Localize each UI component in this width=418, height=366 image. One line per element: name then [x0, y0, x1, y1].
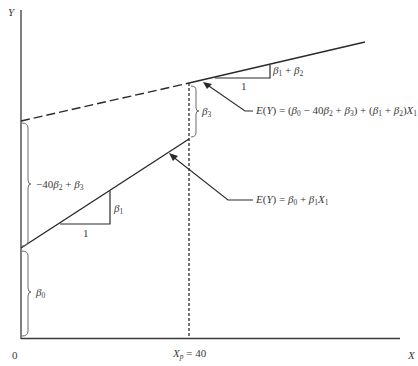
lower-run-label: 1 [83, 228, 89, 239]
upper-line-equation: E(Y) = (β0 − 40β2 + β3) + (β1 + β2)X1 [256, 105, 417, 118]
upper-slope-triangle [215, 65, 270, 78]
intercept-brace [22, 251, 31, 336]
lower-slope-label: β1 [114, 203, 123, 216]
xp-label: Xp = 40 [173, 348, 206, 361]
lower-line-equation: E(Y) = β0 + β1X1 [256, 194, 329, 207]
upper-arrowhead-icon [203, 82, 212, 89]
upper-slope-label: β1 + β2 [273, 65, 303, 78]
upper-line-dashed-extension [21, 83, 189, 121]
y-axis-label: Y [8, 7, 14, 18]
lower-line [21, 139, 189, 248]
lower-equation-leader [172, 156, 253, 200]
jump-brace [191, 86, 199, 137]
intercept-shift-brace [22, 123, 31, 246]
intercept-label: β0 [36, 287, 45, 300]
x-axis-label: X [408, 350, 415, 361]
upper-run-label: 1 [241, 81, 247, 92]
xp-symbol: X [173, 347, 180, 359]
piecewise-regression-diagram: Y X 0 Xp = 40 −40β2 + β3 β0 β3 β1 1 β1 +… [0, 0, 418, 366]
origin-label: 0 [12, 350, 18, 361]
intercept-shift-label: −40β2 + β3 [36, 179, 83, 192]
jump-label: β3 [202, 106, 211, 119]
xp-value: = 40 [183, 347, 206, 359]
